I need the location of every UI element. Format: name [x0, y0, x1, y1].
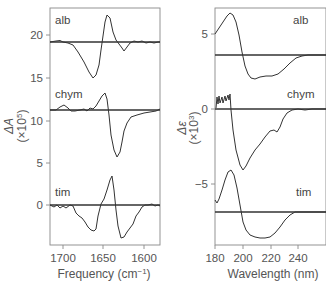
y-tick-label: 20 — [30, 29, 43, 41]
right-panel: 5 0 −5 Δε (×103) 180 200 220 240 Wavelen… — [175, 8, 326, 281]
left-x-axis-title: Frequency (cm−1) — [57, 267, 150, 281]
series-label-chym: chym — [287, 88, 314, 100]
series-label-tim: tim — [55, 186, 70, 198]
y-tick-label: 5 — [202, 28, 208, 40]
y-tick-label: −5 — [195, 178, 208, 190]
x-tick-label: 200 — [233, 252, 252, 264]
series-label-tim: tim — [296, 186, 311, 198]
x-tick-label: 1650 — [90, 252, 116, 264]
x-tick-label: 1700 — [50, 252, 76, 264]
y-tick-label: 0 — [37, 199, 43, 211]
right-x-axis: 180 200 220 240 — [205, 245, 307, 264]
series-label-alb: alb — [293, 14, 308, 26]
left-y-axis: 20 15 10 5 0 — [30, 29, 50, 211]
y-tick-label: 0 — [202, 103, 208, 115]
series-label-chym: chym — [55, 88, 82, 100]
curve-alb — [215, 13, 326, 79]
left-y-axis-title: ΔA — [2, 118, 16, 135]
left-x-axis: 1700 1650 1600 — [50, 245, 157, 264]
y-tick-label: 15 — [30, 72, 43, 84]
left-y-axis-unit: (×105) — [15, 110, 29, 143]
curve-chym — [216, 94, 326, 170]
svg-text:(×103): (×103) — [187, 112, 201, 145]
x-tick-label: 240 — [288, 252, 307, 264]
figure: 20 15 10 5 0 ΔA (×105) 1700 1650 1600 Fr… — [0, 0, 326, 282]
right-plot-frame — [215, 8, 326, 245]
right-y-axis: 5 0 −5 — [195, 28, 215, 190]
y-tick-label: 10 — [30, 115, 43, 127]
left-panel: 20 15 10 5 0 ΔA (×105) 1700 1650 1600 Fr… — [2, 8, 160, 281]
x-tick-label: 220 — [261, 252, 280, 264]
x-tick-label: 1600 — [131, 252, 157, 264]
svg-text:ΔA: ΔA — [2, 118, 16, 135]
right-y-axis-unit: (×103) — [187, 112, 201, 145]
svg-text:(×105): (×105) — [15, 110, 29, 143]
right-x-axis-title: Wavelength (nm) — [228, 267, 319, 281]
series-label-alb: alb — [55, 14, 70, 26]
y-tick-label: 5 — [37, 157, 43, 169]
left-plot-frame — [50, 8, 160, 245]
x-tick-label: 180 — [205, 252, 224, 264]
curve-tim — [215, 170, 326, 238]
curve-chym — [50, 93, 160, 157]
